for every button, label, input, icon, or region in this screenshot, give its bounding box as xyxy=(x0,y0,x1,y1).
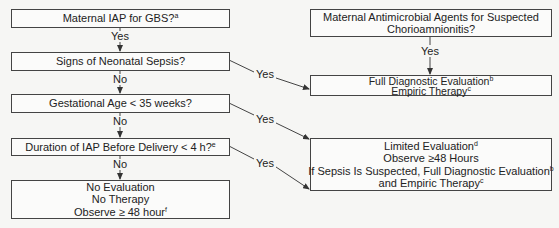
footnote-f: f xyxy=(165,206,167,213)
full-evaluation-box: Full Diagnostic Evaluationb Empiric Ther… xyxy=(310,75,552,96)
gestational-age-text: Gestational Age < 35 weeks? xyxy=(49,97,192,110)
no-evaluation-line3: Observe ≥ 48 hour xyxy=(74,206,165,218)
no-label-1: No xyxy=(113,73,127,85)
yes-label-1: Yes xyxy=(111,30,129,42)
yes-label-gestational: Yes xyxy=(256,113,274,125)
footnote-c2: c xyxy=(480,177,484,184)
maternal-antimicrobial-line1: Maternal Antimicrobial Agents for Suspec… xyxy=(323,11,539,24)
maternal-iap-text: Maternal IAP for GBS? xyxy=(63,12,175,24)
footnote-b2: b xyxy=(550,165,554,172)
duration-iap-box: Duration of IAP Before Delivery < 4 h?e xyxy=(11,138,230,156)
yes-label-right: Yes xyxy=(421,45,439,57)
no-evaluation-line1: No Evaluation xyxy=(86,181,155,194)
maternal-antimicrobial-box: Maternal Antimicrobial Agents for Suspec… xyxy=(310,9,552,37)
no-label-3: No xyxy=(113,158,127,170)
no-label-2: No xyxy=(113,115,127,127)
full-evaluation-line2: Empiric Therapy xyxy=(391,85,467,97)
maternal-iap-box: Maternal IAP for GBS?a xyxy=(11,9,230,28)
duration-iap-text: Duration of IAP Before Delivery < 4 h? xyxy=(25,141,212,153)
limited-evaluation-line1: Limited Evaluation xyxy=(384,140,474,152)
yes-label-duration: Yes xyxy=(256,157,274,169)
gestational-age-box: Gestational Age < 35 weeks? xyxy=(11,94,230,113)
signs-sepsis-box: Signs of Neonatal Sepsis? xyxy=(11,52,230,71)
footnote-a: a xyxy=(174,12,178,19)
footnote-b: b xyxy=(489,75,493,82)
footnote-d: d xyxy=(474,140,478,147)
limited-evaluation-line4: and Empiric Therapy xyxy=(379,177,480,189)
footnote-c: c xyxy=(467,85,471,92)
limited-evaluation-box: Limited Evaluationd Observe ≥48 Hours If… xyxy=(310,138,552,191)
footnote-e: e xyxy=(212,141,216,148)
no-evaluation-line2: No Therapy xyxy=(92,193,149,206)
yes-label-sepsis: Yes xyxy=(256,68,274,80)
limited-evaluation-line3: If Sepsis Is Suspected, Full Diagnostic … xyxy=(308,165,550,177)
limited-evaluation-line2: Observe ≥48 Hours xyxy=(383,152,478,165)
maternal-antimicrobial-line2: Chorioamnionitis? xyxy=(387,23,475,36)
no-evaluation-box: No Evaluation No Therapy Observe ≥ 48 ho… xyxy=(11,180,230,219)
signs-sepsis-text: Signs of Neonatal Sepsis? xyxy=(56,55,185,68)
